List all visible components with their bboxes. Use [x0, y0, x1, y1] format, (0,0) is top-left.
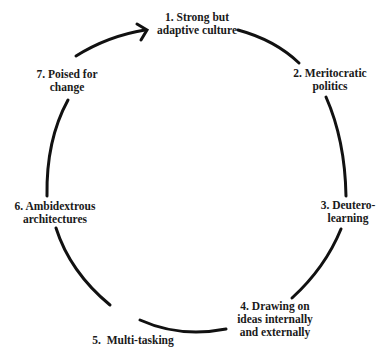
node-3-deutero-learning: 3. Deutero- learning	[308, 199, 385, 225]
connector-3-to-4	[292, 229, 341, 298]
node-6-line-2: architectures	[5, 213, 105, 226]
node-6-line-1: 6. Ambidextrous	[5, 200, 105, 213]
node-2-meritocratic-politics: 2. Meritocratic politics	[280, 67, 380, 93]
cycle-diagram	[0, 0, 385, 356]
node-3-line-1: 3. Deutero-	[308, 199, 385, 212]
node-2-line-2: politics	[280, 80, 380, 93]
connector-5-to-6	[56, 228, 110, 305]
node-3-line-2: learning	[308, 212, 385, 225]
node-5-line-1: 5. Multi-tasking	[88, 334, 178, 347]
node-4-drawing-on-ideas: 4. Drawing on ideas internally and exter…	[225, 300, 325, 339]
node-1-line-2: adaptive culture	[147, 24, 247, 37]
node-1-strong-adaptive-culture: 1. Strong but adaptive culture	[147, 11, 247, 37]
node-2-line-1: 2. Meritocratic	[280, 67, 380, 80]
node-5-multi-tasking: 5. Multi-tasking	[88, 308, 178, 356]
node-6-ambidextrous-architectures: 6. Ambidextrous architectures	[5, 200, 105, 226]
connector-1-to-2	[238, 30, 299, 63]
node-7-line-1: 7. Poised for	[22, 68, 112, 81]
node-7-poised-for-change: 7. Poised for change	[22, 68, 112, 94]
node-4-line-2: ideas internally	[225, 313, 325, 326]
connector-7-to-1	[76, 30, 145, 56]
node-7-line-2: change	[22, 81, 112, 94]
node-1-line-1: 1. Strong but	[147, 11, 247, 24]
node-4-line-1: 4. Drawing on	[225, 300, 325, 313]
connector-2-to-3	[326, 97, 346, 196]
connector-6-to-7	[47, 100, 68, 196]
node-4-line-3: and externally	[225, 326, 325, 339]
